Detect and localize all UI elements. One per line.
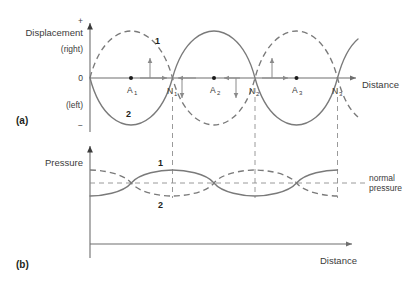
panel-a-negative-direction-label: (left)	[66, 100, 83, 110]
antinode-dot-2	[212, 76, 216, 80]
antinode-label-2: A	[210, 85, 216, 95]
antinode-dot-1	[129, 76, 133, 80]
antinode-sub-3: 3	[299, 90, 303, 96]
node-guide-lines	[173, 88, 338, 198]
panel-b-x-axis-label: Distance	[320, 255, 357, 266]
panel-a-x-axis-label: Distance	[362, 79, 399, 90]
normal-pressure-label-line1: normal	[369, 173, 395, 183]
panel-a-origin-label: 0	[78, 73, 83, 83]
panel-a-y-plus-label: +	[78, 16, 83, 26]
normal-pressure-label-line2: pressure	[369, 183, 402, 193]
panel-b-curve-label-2: 2	[158, 200, 163, 210]
figure-canvas: + Displacement (right) 0 (left) − Distan…	[0, 0, 415, 282]
antinode-sub-2: 2	[217, 90, 221, 96]
antinode-sub-1: 1	[134, 90, 138, 96]
panel-b-label: (b)	[16, 259, 29, 270]
panel-a-label: (a)	[16, 115, 28, 126]
standing-wave-figure: + Displacement (right) 0 (left) − Distan…	[0, 0, 415, 282]
panel-a-displacement: + Displacement (right) 0 (left) − Distan…	[16, 16, 399, 132]
panel-a-positive-direction-label: (right)	[61, 44, 83, 54]
antinode-dot-3	[295, 76, 299, 80]
panel-a-y-axis-label: Displacement	[25, 27, 83, 38]
panel-a-curve-label-2: 2	[126, 109, 131, 119]
panel-b-y-axis-label: Pressure	[45, 157, 83, 168]
panel-b-pressure: Pressure Distance normal pressure 1 2 (b…	[16, 146, 402, 270]
antinode-label-1: A	[127, 85, 133, 95]
panel-a-curve-label-1: 1	[155, 36, 160, 46]
node-label-2: N	[249, 86, 255, 96]
panel-a-y-minus-label: −	[78, 120, 83, 130]
panel-b-curve-label-1: 1	[158, 158, 163, 168]
antinode-label-3: A	[292, 85, 298, 95]
